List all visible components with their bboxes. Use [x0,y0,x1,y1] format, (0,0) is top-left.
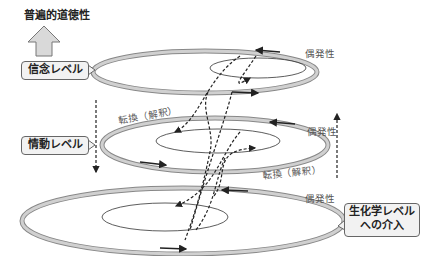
biochemical-label-line2: への介入 [349,219,415,233]
belief-level-ring [93,50,317,93]
up-arrow-icon [28,26,60,56]
transition-paths [175,56,256,240]
biochemical-level-ring [22,188,344,254]
contingency-note-3: 偶発性 [305,191,335,205]
contingency-note-2: 偶発性 [307,124,337,138]
biochemical-label-line1: 生化学レベル [349,205,415,219]
biochemical-level-label: 生化学レベル への介入 [344,203,420,237]
contingency-note-1: 偶発性 [305,46,335,60]
callout-pointer [88,140,95,150]
diagram-title: 普遍的道徳性 [24,6,90,22]
belief-level-label: 信念レベル [21,61,89,80]
emotion-level-label: 情動レベル [21,136,89,155]
